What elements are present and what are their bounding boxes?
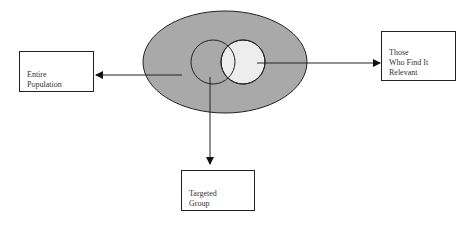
targeted-group-box: Targeted Group — [181, 170, 255, 211]
entire-population-label: Entire Population — [27, 70, 62, 89]
targeted-group-label: Targeted Group — [189, 189, 217, 208]
entire-population-box: Entire Population — [19, 51, 94, 92]
those-who-find-it-relevant-box: Those Who Find It Relevant — [381, 31, 456, 81]
relevant-label: Those Who Find It Relevant — [389, 48, 428, 77]
